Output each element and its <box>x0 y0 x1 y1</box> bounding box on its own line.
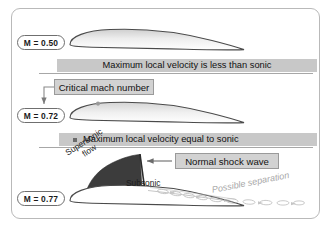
callout-normal-shock-wave: Normal shock wave <box>175 153 279 169</box>
critical-mach-arrow <box>44 87 54 104</box>
airfoil-shape-072 <box>70 102 244 123</box>
airfoil-shape-050 <box>70 29 244 50</box>
sonic-point-marker <box>96 102 100 106</box>
mach-label-072: M = 0.72 <box>17 108 65 123</box>
banner-max-velocity-subsonic: Maximum local velocity is less than soni… <box>57 59 317 72</box>
transonic-airfoil-diagram: M = 0.50 M = 0.72 M = 0.77 Maximum local… <box>0 0 331 234</box>
mach-label-077: M = 0.77 <box>17 191 65 206</box>
mach-label-050: M = 0.50 <box>17 35 65 50</box>
callout-critical-mach-number: Critical mach number <box>54 79 154 95</box>
label-subsonic-flow: Subsonic <box>126 178 160 188</box>
